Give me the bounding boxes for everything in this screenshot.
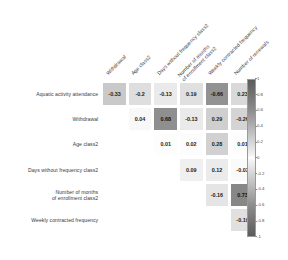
colorbar-tick: 1 — [257, 77, 259, 81]
colorbar-tick: -0.4 — [257, 187, 264, 191]
heatmap-cell: -0.2 — [129, 83, 152, 105]
heatmap-cell: 0.09 — [180, 159, 203, 181]
colorbar-tick: -0.6 — [257, 203, 264, 207]
colorbar-tick-label: 0.2 — [257, 139, 263, 144]
row-label: Aquatic activity attendance — [0, 91, 98, 97]
colorbar-tick-mark — [255, 173, 257, 174]
heatmap-cell: -0.13 — [180, 108, 203, 130]
colorbar-tick-label: 0.4 — [257, 123, 263, 128]
colorbar-tick-mark — [255, 110, 257, 111]
colorbar-tick-label: -0.6 — [257, 202, 264, 207]
colorbar-tick: 0.6 — [257, 108, 263, 112]
colorbar-tick: 0.2 — [257, 140, 263, 144]
row-label: Withdrawal — [0, 116, 98, 122]
heatmap-cell: 0.28 — [206, 133, 229, 155]
colorbar-tick-label: 0 — [257, 155, 259, 160]
colorbar-tick-label: -0.4 — [257, 186, 264, 191]
colorbar-tick-mark — [255, 221, 257, 222]
colorbar — [247, 79, 256, 237]
heatmap-cell: 0.04 — [129, 108, 152, 130]
row-label: Weekly contracted frequency — [0, 217, 98, 223]
heatmap-cell: -0.16 — [206, 184, 229, 206]
heatmap-cell: -0.33 — [103, 83, 126, 105]
colorbar-tick: 0.4 — [257, 124, 263, 128]
colorbar-tick-mark — [255, 205, 257, 206]
colorbar-tick-label: 0.8 — [257, 92, 263, 97]
colorbar-tick: -0.2 — [257, 172, 264, 176]
colorbar-tick-mark — [255, 94, 257, 95]
row-label: Age class2 — [0, 141, 98, 147]
colorbar-tick-label: -0.8 — [257, 218, 264, 223]
colorbar-tick-label: -1 — [257, 234, 261, 239]
colorbar-tick: -1 — [257, 235, 261, 239]
colorbar-tick-label: -0.2 — [257, 171, 264, 176]
heatmap-cell: 0.01 — [154, 133, 177, 155]
heatmap-cell: -0.66 — [206, 83, 229, 105]
colorbar-tick: 0 — [257, 156, 259, 160]
colorbar-tick-mark — [255, 126, 257, 127]
colorbar-tick: 0.8 — [257, 93, 263, 97]
row-label: Days without frequency class2 — [0, 167, 98, 173]
colorbar-tick-mark — [255, 142, 257, 143]
colorbar-tick-mark — [255, 157, 257, 158]
colorbar-tick: -0.8 — [257, 219, 264, 223]
heatmap-cell: 0.19 — [180, 83, 203, 105]
heatmap-cell: -0.13 — [154, 83, 177, 105]
correlation-heatmap: WithdrawalAge class2Days without frequen… — [0, 0, 288, 260]
colorbar-tick-label: 1 — [257, 76, 259, 81]
colorbar-tick-mark — [255, 78, 257, 79]
colorbar-tick-mark — [255, 189, 257, 190]
row-label: Number of months of enrollment class2 — [0, 189, 98, 201]
colorbar-tick-label: 0.6 — [257, 107, 263, 112]
colorbar-tick-mark — [255, 236, 257, 237]
heatmap-cell: 0.68 — [154, 108, 177, 130]
heatmap-cell: 0.29 — [206, 108, 229, 130]
heatmap-cell: 0.02 — [180, 133, 203, 155]
heatmap-cell: 0.12 — [206, 159, 229, 181]
